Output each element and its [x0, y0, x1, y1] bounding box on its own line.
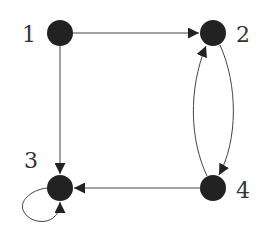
node-1: [47, 20, 73, 46]
node-4-label: 4: [236, 180, 250, 202]
node-1-label: 1: [22, 24, 36, 46]
edge-4-to-2: [193, 46, 207, 176]
edge-2-to-4: [219, 45, 233, 175]
graph-diagram: 1 2 3 4: [0, 0, 264, 243]
node-2: [200, 20, 226, 46]
node-2-label: 2: [236, 24, 250, 46]
node-4: [200, 175, 226, 201]
node-3: [47, 175, 73, 201]
graph-canvas: [0, 0, 264, 243]
node-3-label: 3: [24, 150, 38, 172]
